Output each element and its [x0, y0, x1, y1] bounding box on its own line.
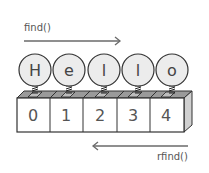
box-top: [17, 91, 192, 98]
char-3: l: [136, 61, 140, 80]
index-4: 4: [161, 106, 171, 125]
string-index-diagram: find() rfind(): [0, 0, 209, 173]
index-3: 3: [128, 106, 138, 125]
index-1: 1: [61, 106, 71, 125]
index-2: 2: [95, 106, 105, 125]
char-0: H: [29, 61, 41, 80]
forward-arrow-icon: [24, 37, 120, 45]
reverse-arrow-icon: [93, 142, 188, 150]
index-0: 0: [28, 106, 38, 125]
char-4: o: [167, 61, 177, 80]
char-1: e: [64, 61, 74, 80]
box-side: [184, 91, 192, 132]
char-2: l: [102, 61, 106, 80]
